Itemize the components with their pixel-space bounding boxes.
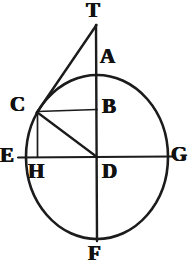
segment-vertical-diameter-TF: [96, 25, 97, 241]
figure-canvas: [0, 0, 193, 273]
point-label-E: E: [0, 145, 14, 166]
segment-tangent-TC: [37, 25, 97, 113]
point-label-B: B: [102, 96, 116, 117]
point-label-F: F: [88, 243, 101, 264]
point-label-A: A: [100, 46, 115, 67]
point-label-H: H: [28, 161, 44, 182]
segment-perpendicular-CB: [37, 110, 97, 112]
point-label-T: T: [86, 0, 100, 21]
point-label-G: G: [171, 144, 187, 165]
point-label-D: D: [102, 161, 117, 182]
segment-radius-CD: [38, 113, 98, 158]
geometric-figure: T A B C D E F G H: [0, 0, 193, 273]
point-label-C: C: [10, 94, 25, 115]
